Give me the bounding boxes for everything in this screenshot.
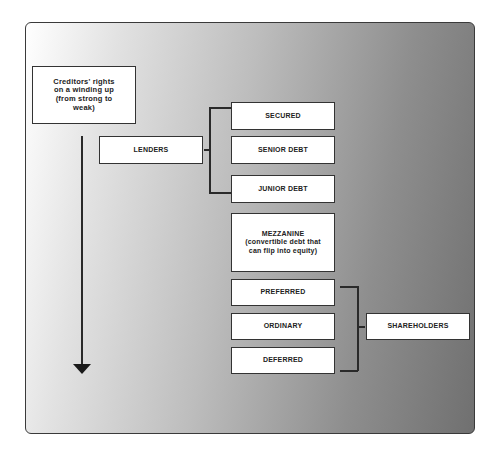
ordinary-box: ORDINARY bbox=[231, 313, 335, 340]
creditors-rights-box: Creditors' rights on a winding up (from … bbox=[32, 66, 136, 124]
arrow-down-icon bbox=[73, 364, 91, 374]
ranking-arrow-line bbox=[81, 136, 83, 365]
preferred-box: PREFERRED bbox=[231, 279, 335, 306]
senior-debt-box: SENIOR DEBT bbox=[231, 136, 335, 164]
shareholders-bracket-tick bbox=[357, 326, 365, 328]
lenders-label: LENDERS bbox=[134, 146, 169, 154]
mezzanine-title: MEZZANINE bbox=[262, 230, 305, 238]
preferred-label: PREFERRED bbox=[261, 288, 306, 296]
senior-debt-label: SENIOR DEBT bbox=[258, 146, 308, 154]
lenders-bracket-bottom bbox=[209, 192, 231, 194]
deferred-label: DEFERRED bbox=[263, 356, 303, 364]
mezzanine-description: (convertible debt that can flip into equ… bbox=[244, 238, 322, 254]
secured-box: SECURED bbox=[231, 102, 335, 130]
deferred-box: DEFERRED bbox=[231, 347, 335, 374]
secured-label: SECURED bbox=[265, 112, 301, 120]
shareholders-bracket-bottom bbox=[340, 370, 358, 372]
junior-debt-box: JUNIOR DEBT bbox=[231, 175, 335, 203]
lenders-box: LENDERS bbox=[99, 136, 203, 164]
mezzanine-box: MEZZANINE (convertible debt that can fli… bbox=[231, 213, 335, 272]
lenders-bracket-top bbox=[209, 107, 231, 109]
shareholders-label: SHAREHOLDERS bbox=[387, 322, 448, 330]
creditors-rights-text: Creditors' rights on a winding up (from … bbox=[49, 78, 119, 113]
shareholders-bracket-vertical bbox=[357, 286, 359, 371]
lenders-bracket-vertical bbox=[209, 107, 211, 193]
shareholders-box: SHAREHOLDERS bbox=[366, 313, 470, 340]
ordinary-label: ORDINARY bbox=[264, 322, 303, 330]
shareholders-bracket-top bbox=[340, 286, 358, 288]
junior-debt-label: JUNIOR DEBT bbox=[258, 185, 308, 193]
